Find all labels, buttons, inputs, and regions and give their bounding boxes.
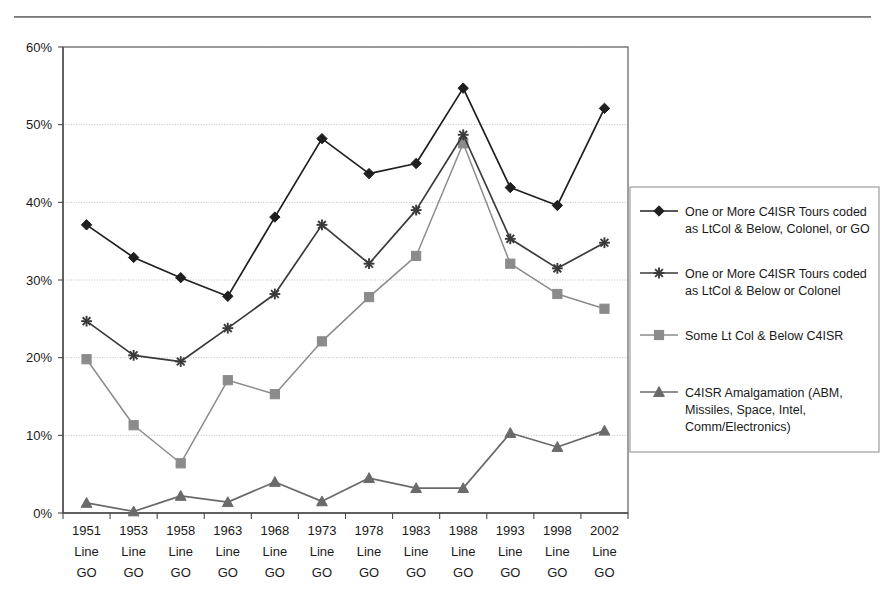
data-point-marker-asterisk bbox=[654, 268, 665, 279]
data-point-marker-square bbox=[553, 289, 562, 298]
series-line-path bbox=[87, 431, 605, 512]
x-axis-labels-group: 1951LineGO1953LineGO1958LineGO1963LineGO… bbox=[72, 523, 619, 580]
x-axis-category-label: 1953 bbox=[119, 523, 148, 538]
data-point-marker-asterisk bbox=[599, 237, 610, 248]
legend-item-label: as LtCol & Below, Colonel, or GO bbox=[685, 222, 870, 236]
series-3 bbox=[82, 139, 609, 468]
x-axis-category-label: Line bbox=[216, 544, 241, 559]
data-point-marker-triangle bbox=[269, 477, 280, 487]
data-point-marker-asterisk bbox=[364, 258, 375, 269]
page-root: 0%10%20%30%40%50%60% 1951LineGO1953LineG… bbox=[0, 0, 885, 604]
x-axis-category-label: Line bbox=[451, 544, 476, 559]
x-axis-category-label: GO bbox=[406, 565, 426, 580]
data-point-marker-square bbox=[270, 390, 279, 399]
x-axis-category-label: Line bbox=[592, 544, 617, 559]
data-point-marker-asterisk bbox=[222, 323, 233, 334]
y-axis-tick-label: 50% bbox=[26, 117, 52, 132]
data-point-marker-square bbox=[82, 355, 91, 364]
x-axis-category-label: Line bbox=[404, 544, 429, 559]
data-point-marker-triangle bbox=[505, 428, 516, 438]
data-point-marker-triangle bbox=[364, 473, 375, 483]
x-axis-category-label: GO bbox=[124, 565, 144, 580]
data-point-marker-asterisk bbox=[505, 233, 516, 244]
data-point-marker-triangle bbox=[175, 491, 186, 501]
x-axis-category-label: 1958 bbox=[166, 523, 195, 538]
series-line-path bbox=[87, 135, 605, 362]
series-line-path bbox=[87, 143, 605, 463]
line-chart-figure: 0%10%20%30%40%50%60% 1951LineGO1953LineG… bbox=[0, 22, 885, 604]
series-2 bbox=[81, 129, 610, 367]
data-point-marker-diamond bbox=[128, 252, 138, 262]
x-axis-category-label: Line bbox=[168, 544, 193, 559]
y-axis-tick-label: 10% bbox=[26, 428, 52, 443]
series-1 bbox=[81, 83, 609, 302]
x-axis-category-label: GO bbox=[500, 565, 520, 580]
data-point-marker-square bbox=[654, 330, 663, 339]
x-axis-category-label: 1978 bbox=[355, 523, 384, 538]
header-divider-rule bbox=[14, 16, 871, 18]
x-axis-category-label: GO bbox=[265, 565, 285, 580]
data-point-marker-triangle bbox=[599, 425, 610, 435]
data-point-marker-diamond bbox=[458, 83, 468, 93]
legend-item-label: One or More C4ISR Tours coded bbox=[685, 267, 867, 281]
data-point-marker-asterisk bbox=[81, 316, 92, 327]
legend-item-label: One or More C4ISR Tours coded bbox=[685, 205, 867, 219]
data-point-marker-square bbox=[129, 421, 138, 430]
legend-item-label: Comm/Electronics) bbox=[685, 420, 791, 434]
x-axis-category-label: 1951 bbox=[72, 523, 101, 538]
data-series-group bbox=[81, 83, 610, 516]
data-point-marker-diamond bbox=[176, 272, 186, 282]
x-axis-category-label: Line bbox=[545, 544, 570, 559]
x-axis-category-label: GO bbox=[594, 565, 614, 580]
x-axis-category-label: GO bbox=[76, 565, 96, 580]
x-axis-category-label: 1968 bbox=[260, 523, 289, 538]
x-axis-category-label: GO bbox=[547, 565, 567, 580]
y-axis-tick-label: 60% bbox=[26, 40, 52, 55]
data-point-marker-diamond bbox=[223, 291, 233, 301]
x-axis-category-label: Line bbox=[310, 544, 335, 559]
chart-legend: One or More C4ISR Tours codedas LtCol & … bbox=[630, 187, 879, 452]
x-axis-category-label: 2002 bbox=[590, 523, 619, 538]
x-axis-category-label: Line bbox=[498, 544, 523, 559]
series-4 bbox=[81, 425, 610, 516]
y-axis-tick-label: 20% bbox=[26, 350, 52, 365]
data-point-marker-square bbox=[317, 337, 326, 346]
legend-item-label: C4ISR Amalgamation (ABM, bbox=[685, 386, 843, 400]
data-point-marker-square bbox=[223, 376, 232, 385]
data-point-marker-asterisk bbox=[317, 219, 328, 230]
data-point-marker-square bbox=[506, 259, 515, 268]
x-axis-category-label: 1993 bbox=[496, 523, 525, 538]
legend-item-label: as LtCol & Below or Colonel bbox=[685, 284, 841, 298]
y-axis-labels-group: 0%10%20%30%40%50%60% bbox=[26, 40, 52, 521]
data-point-marker-diamond bbox=[81, 220, 91, 230]
x-axis-category-label: 1963 bbox=[213, 523, 242, 538]
y-axis-tick-label: 30% bbox=[26, 273, 52, 288]
data-point-marker-square bbox=[364, 292, 373, 301]
x-axis-category-label: GO bbox=[218, 565, 238, 580]
data-point-marker-square bbox=[600, 304, 609, 313]
axis-ticks-group bbox=[58, 47, 628, 519]
x-axis-category-label: 1988 bbox=[449, 523, 478, 538]
gridlines-group bbox=[63, 47, 628, 435]
data-point-marker-diamond bbox=[270, 212, 280, 222]
x-axis-category-label: GO bbox=[359, 565, 379, 580]
data-point-marker-asterisk bbox=[128, 350, 139, 361]
clipped-header-caption bbox=[14, 0, 871, 8]
legend-item-label: Some Lt Col & Below C4ISR bbox=[685, 329, 843, 343]
data-point-marker-diamond bbox=[411, 158, 421, 168]
x-axis-category-label: 1973 bbox=[307, 523, 336, 538]
data-point-marker-square bbox=[176, 459, 185, 468]
y-axis-tick-label: 0% bbox=[33, 506, 52, 521]
x-axis-category-label: Line bbox=[357, 544, 382, 559]
data-point-marker-diamond bbox=[599, 103, 609, 113]
x-axis-category-label: GO bbox=[453, 565, 473, 580]
data-point-marker-asterisk bbox=[458, 129, 469, 140]
data-point-marker-asterisk bbox=[411, 205, 422, 216]
x-axis-category-label: Line bbox=[263, 544, 288, 559]
data-point-marker-triangle bbox=[81, 498, 92, 508]
series-line-path bbox=[87, 88, 605, 296]
x-axis-category-label: GO bbox=[171, 565, 191, 580]
data-point-marker-diamond bbox=[505, 182, 515, 192]
data-point-marker-diamond bbox=[552, 200, 562, 210]
data-point-marker-square bbox=[412, 251, 421, 260]
